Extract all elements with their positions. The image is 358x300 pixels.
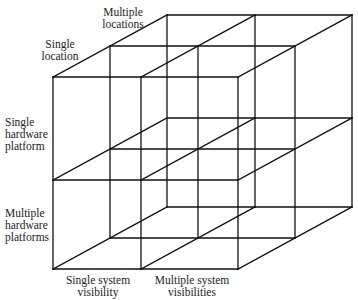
depth-edges: [53, 15, 352, 269]
label-multiple-locations: Multiple locations: [88, 6, 158, 30]
label-single-hardware-platform: Single hardware platform: [5, 116, 55, 152]
label-multiple-hardware-platforms: Multiple hardware platforms: [5, 207, 55, 243]
label-single-location: Single location: [30, 38, 90, 62]
label-multiple-system-visibilities: Multiple system visibilities: [144, 274, 240, 298]
front-plane: [53, 77, 238, 269]
back-plane: [167, 15, 352, 207]
label-single-system-visibility: Single system visibility: [58, 274, 138, 298]
middle-plane: [110, 46, 295, 238]
